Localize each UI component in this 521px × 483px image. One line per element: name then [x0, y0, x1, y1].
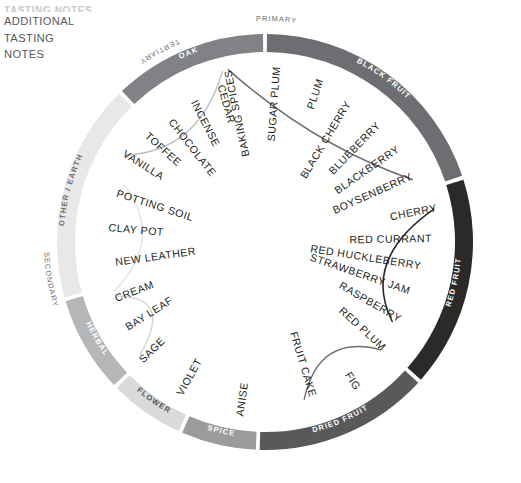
term-label[interactable]: VIOLET [174, 356, 204, 397]
term-label[interactable]: PLUM [304, 77, 326, 111]
flavor-wheel-svg: BLACK FRUITRED FRUITDRIED FRUITSPICEFLOW… [0, 0, 521, 483]
term-label[interactable]: POTTING SOIL [115, 187, 195, 223]
term-label[interactable]: CLAY POT [108, 221, 164, 238]
ring-band-black-fruit[interactable] [267, 34, 462, 182]
term-label[interactable]: SUGAR PLUM [265, 66, 282, 142]
term-label[interactable]: ANISE [233, 381, 250, 417]
term-labels: SUGAR PLUMPLUMBLACK CHERRYBLUEBERRYBLACK… [108, 66, 438, 417]
term-label[interactable]: CHERRY [389, 202, 438, 223]
term-label[interactable]: SAGE [136, 334, 167, 364]
term-label[interactable]: CREAM [113, 278, 155, 304]
term-label[interactable]: RED CURRANT [349, 232, 432, 245]
ring-band-dried-fruit[interactable] [260, 370, 418, 450]
term-label[interactable]: BAY LEAF [123, 294, 175, 333]
tasting-notes-wheel: TASTING NOTES ADDITIONAL TASTING NOTES B… [0, 0, 521, 483]
term-label[interactable]: NEW LEATHER [114, 245, 196, 268]
ring-band-oak[interactable] [122, 34, 263, 104]
term-label[interactable]: FRUIT CAKE [288, 330, 319, 398]
era-label-primary: PRIMARY [256, 14, 298, 25]
term-label[interactable]: FIG [343, 369, 363, 392]
